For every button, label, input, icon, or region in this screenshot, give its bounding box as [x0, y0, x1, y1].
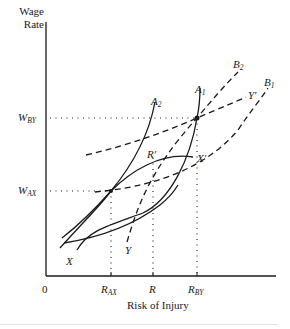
label-b1: B1	[264, 77, 274, 90]
label-a2: A2	[151, 96, 161, 109]
curve-b1	[95, 88, 268, 192]
y-axis-title-line1: Wage	[14, 5, 44, 18]
label-sub: 1	[271, 81, 275, 90]
label-sub: 1	[202, 88, 206, 97]
y-tick-main: W	[18, 111, 27, 123]
curve-x	[62, 191, 111, 238]
label-x: X	[66, 256, 73, 267]
dotted-guides	[50, 118, 197, 276]
compensating-wage-diagram: Wage Rate WBY WAX 0 RAX R RBY Risk of In…	[0, 0, 290, 329]
y-axis-title: Wage Rate	[14, 5, 44, 31]
label-sub: 2	[158, 100, 162, 109]
label-main: B	[233, 58, 240, 70]
x-tick-r-ax: RAX	[101, 284, 117, 297]
point-a1	[195, 116, 200, 121]
label-x-prime: X′	[197, 153, 206, 164]
label-r-prime: R′	[147, 149, 156, 160]
point-a	[109, 189, 113, 193]
label-main: B	[264, 76, 271, 88]
curve-x-prime	[111, 156, 193, 191]
label-main: A	[151, 95, 158, 107]
solid-curves	[60, 88, 200, 250]
x-axis-title: Risk of Injury	[127, 300, 189, 311]
bottom-divider	[0, 324, 278, 325]
x-tick-r: R	[149, 284, 156, 295]
label-y: Y	[125, 245, 131, 256]
curve-lower	[64, 185, 178, 243]
y-axis-title-line2: Rate	[14, 18, 44, 31]
x-tick-main: R	[188, 283, 195, 295]
label-a1: A1	[195, 84, 205, 97]
x-tick-main: R	[101, 283, 108, 295]
curve-y-prime	[86, 97, 246, 155]
y-tick-w-by: WBY	[18, 112, 36, 125]
y-tick-sub: BY	[27, 116, 36, 125]
label-b2: B2	[233, 59, 243, 72]
label-y-prime: Y′	[248, 90, 257, 101]
label-sub: 2	[240, 63, 244, 72]
y-tick-w-ax: WAX	[18, 185, 36, 198]
origin-label: 0	[42, 284, 48, 295]
diagram-canvas	[0, 0, 290, 329]
label-main: A	[195, 83, 202, 95]
y-tick-sub: AX	[27, 189, 36, 198]
x-tick-sub: AX	[108, 288, 117, 297]
y-tick-main: W	[18, 184, 27, 196]
x-tick-sub: BY	[195, 288, 204, 297]
x-tick-r-by: RBY	[188, 284, 204, 297]
x-tick-main: R	[149, 283, 156, 295]
